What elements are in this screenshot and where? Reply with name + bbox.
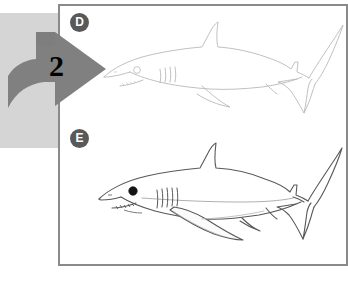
shark-illustration-e [94, 140, 344, 252]
shark-d-eye [134, 67, 141, 74]
panel-badge-e: E [70, 129, 89, 148]
shark-e-eye [129, 187, 137, 195]
panel-e-alt: Panel E: darker outline drawing of a sha… [0, 0, 1, 1]
panel-d-alt: Panel D: faint outline drawing of a shar… [0, 0, 1, 1]
shark-illustration-d [98, 14, 344, 118]
step-arrow-number: 2 [42, 51, 70, 81]
